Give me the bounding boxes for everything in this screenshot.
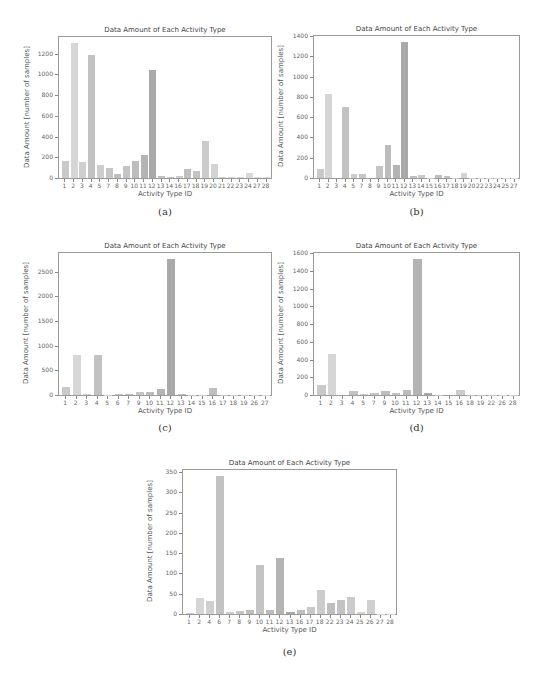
bar-13 — [178, 394, 186, 395]
plot-area — [313, 35, 520, 179]
bar-18 — [452, 178, 459, 179]
y-tick-mark — [310, 395, 313, 396]
bar-13 — [424, 393, 433, 395]
bar-9 — [381, 391, 390, 395]
y-tick-mark — [179, 614, 182, 615]
bar-23 — [337, 600, 345, 614]
bar-7 — [359, 174, 366, 178]
bar-28 — [263, 177, 270, 178]
bar-11 — [393, 165, 400, 178]
bar-22 — [228, 177, 235, 178]
bar-12 — [149, 70, 156, 178]
bar-5 — [360, 394, 369, 395]
y-tick-mark — [310, 158, 313, 159]
bar-8 — [236, 611, 244, 614]
bar-5 — [351, 174, 358, 178]
bar-2 — [196, 598, 204, 614]
y-tick-mark — [55, 178, 58, 179]
bar-23 — [237, 177, 244, 178]
bar-9 — [136, 392, 144, 395]
y-tick-mark — [310, 360, 313, 361]
plot-area — [58, 36, 272, 179]
bar-14 — [418, 175, 425, 178]
y-tick-mark — [179, 472, 182, 473]
bar-1 — [62, 161, 69, 178]
bar-16 — [456, 390, 465, 395]
y-tick-mark — [310, 77, 313, 78]
bar-26 — [367, 600, 375, 614]
chart-title: Data Amount of Each Activity Type — [182, 459, 397, 467]
y-tick-mark — [310, 56, 313, 57]
bar-16 — [176, 176, 183, 178]
bar-2 — [328, 354, 337, 395]
bar-9 — [246, 610, 254, 614]
bar-9 — [123, 166, 130, 178]
x-axis-label: Activity Type ID — [58, 190, 272, 198]
x-axis-label: Activity Type ID — [313, 407, 520, 415]
bar-10 — [132, 161, 139, 178]
figure-caption: (c) — [145, 422, 185, 433]
bar-4 — [342, 107, 349, 178]
bar-20 — [211, 164, 218, 179]
bar-17 — [184, 169, 191, 178]
bar-24 — [246, 173, 253, 178]
chart-title: Data Amount of Each Activity Type — [313, 25, 520, 33]
bar-1 — [317, 169, 324, 178]
bar-11 — [403, 390, 412, 395]
bar-10 — [256, 565, 264, 614]
figure-caption: (b) — [397, 206, 437, 217]
y-tick-mark — [55, 116, 58, 117]
x-axis-label: Activity Type ID — [313, 190, 520, 198]
plot-area — [182, 469, 397, 615]
x-tick-label: 27 — [258, 399, 272, 406]
bar-18 — [193, 171, 200, 178]
bar-7 — [370, 393, 379, 395]
y-tick-mark — [55, 137, 58, 138]
bar-21 — [219, 177, 226, 178]
bar-24 — [347, 597, 355, 614]
bar-8 — [114, 174, 121, 178]
bar-14 — [167, 177, 174, 178]
chart-title: Data Amount of Each Activity Type — [58, 26, 272, 34]
y-tick-mark — [310, 137, 313, 138]
y-tick-mark — [179, 594, 182, 595]
x-tick-label: 28 — [383, 618, 397, 625]
bar-4 — [94, 355, 102, 395]
figure-caption: (d) — [397, 422, 437, 433]
bar-1 — [62, 387, 70, 395]
figure-caption: (a) — [145, 206, 185, 217]
y-tick-mark — [310, 271, 313, 272]
y-axis-label: Data Amount [number of samples] — [146, 468, 154, 614]
bar-2 — [325, 94, 332, 178]
y-tick-mark — [55, 346, 58, 347]
y-tick-mark — [310, 342, 313, 343]
y-tick-mark — [179, 492, 182, 493]
chart-title: Data Amount of Each Activity Type — [313, 242, 520, 250]
x-tick-label: 27 — [507, 182, 521, 189]
y-tick-mark — [310, 178, 313, 179]
y-axis-label: Data Amount [number of samples] — [277, 251, 285, 395]
y-tick-mark — [55, 74, 58, 75]
bar-3 — [83, 394, 91, 395]
chart-title: Data Amount of Each Activity Type — [58, 242, 272, 250]
plot-area — [58, 252, 272, 396]
y-tick-mark — [310, 117, 313, 118]
y-tick-mark — [179, 573, 182, 574]
bar-10 — [392, 393, 401, 395]
y-tick-mark — [55, 272, 58, 273]
y-tick-mark — [55, 54, 58, 55]
x-tick-label: 28 — [506, 399, 520, 406]
y-tick-mark — [310, 289, 313, 290]
bar-19 — [202, 141, 209, 178]
y-tick-mark — [55, 321, 58, 322]
y-axis-label: Data Amount [number of samples] — [22, 35, 30, 178]
bar-15 — [427, 178, 434, 179]
bar-17 — [307, 607, 315, 614]
bar-13 — [286, 612, 294, 614]
y-tick-mark — [55, 95, 58, 96]
plot-area — [313, 252, 520, 396]
bar-9 — [376, 166, 383, 178]
bar-12 — [401, 42, 408, 178]
y-tick-mark — [310, 324, 313, 325]
bar-16 — [435, 175, 442, 178]
